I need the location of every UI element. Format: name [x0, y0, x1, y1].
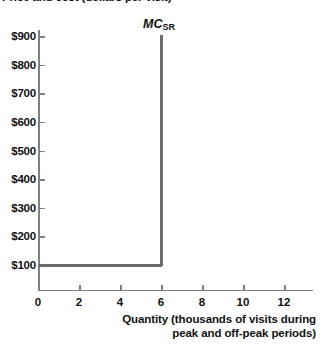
y-tick-label-100: $100 [11, 259, 36, 271]
y-tick-label-600: $600 [11, 116, 36, 128]
x-tick-2 [79, 285, 81, 290]
x-tick-12 [284, 285, 286, 290]
x-tick-label-4: 4 [110, 296, 130, 308]
x-tick-label-8: 8 [192, 296, 212, 308]
y-tick-label-200: $200 [11, 230, 36, 242]
x-tick-label-2: 2 [69, 296, 89, 308]
y-tick-label-800: $800 [11, 59, 36, 71]
x-axis-line [38, 290, 313, 292]
y-tick-label-400: $400 [11, 173, 36, 185]
y-tick-600 [40, 122, 45, 124]
mc-sr-vertical-segment [160, 35, 163, 266]
y-tick-900 [40, 36, 45, 38]
x-tick-label-6: 6 [151, 296, 171, 308]
x-axis-title: Quantity (thousands of visits during pea… [66, 313, 316, 340]
x-tick-label-12: 12 [274, 296, 294, 308]
mc-sr-horizontal-segment [38, 264, 162, 267]
x-axis-title-line-2: peak and off-peak periods) [66, 327, 316, 341]
y-tick-300 [40, 208, 45, 210]
y-axis-line [38, 30, 40, 291]
y-tick-700 [40, 93, 45, 95]
chart-title: Price and cost (dollars per visit) [2, 0, 171, 3]
x-tick-6 [161, 285, 163, 290]
x-tick-label-0: 0 [28, 296, 48, 308]
x-tick-10 [243, 285, 245, 290]
y-tick-label-500: $500 [11, 145, 36, 157]
x-tick-8 [202, 285, 204, 290]
y-tick-400 [40, 179, 45, 181]
x-tick-label-10: 10 [233, 296, 253, 308]
y-tick-label-700: $700 [11, 87, 36, 99]
y-tick-label-300: $300 [11, 202, 36, 214]
x-axis-title-line-1: Quantity (thousands of visits during [66, 313, 316, 327]
mc-sr-curve-label: MCSR [143, 17, 175, 31]
x-tick-4 [120, 285, 122, 290]
mc-sr-label-subscript: SR [162, 22, 175, 32]
y-tick-label-900: $900 [11, 30, 36, 42]
chart-container: Price and cost (dollars per visit) $900 … [0, 0, 320, 345]
y-tick-500 [40, 151, 45, 153]
y-tick-200 [40, 236, 45, 238]
mc-sr-label-main: MC [143, 17, 162, 31]
y-tick-800 [40, 65, 45, 67]
